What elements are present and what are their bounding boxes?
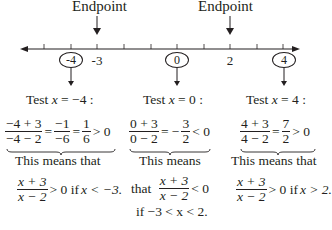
- test-arrow-icon: [281, 68, 287, 86]
- test-computation: −4 + 3−4 − 2 = −1−6 = 16 > 0: [5, 116, 111, 146]
- endpoint-label: Endpoint: [198, 0, 253, 15]
- number-line: [0, 0, 327, 90]
- test-arrow-icon: [174, 68, 180, 86]
- conclusion: that x + 3x − 2 < 0: [131, 174, 209, 203]
- left-arrow-icon: [20, 46, 28, 52]
- endpoint-arrow-icon: [226, 16, 234, 35]
- tick-label: -3: [92, 53, 103, 69]
- means-text: This means that: [15, 153, 100, 169]
- conclusion: x + 3x − 2 > 0 if x > 2.: [236, 174, 332, 204]
- endpoint-label: Endpoint: [72, 0, 127, 15]
- test-heading: Test x = 4 :: [246, 92, 306, 108]
- test-heading: Test x = 0 :: [143, 92, 203, 108]
- endpoint-arrow-icon: [93, 16, 101, 35]
- means-text: This means: [139, 153, 201, 169]
- tick-label-circled: -4: [59, 52, 83, 68]
- conclusion: x + 3x − 2 > 0 if x < −3.: [17, 174, 122, 204]
- tick-label: 2: [227, 53, 234, 69]
- tick-label-circled: 0: [165, 52, 189, 68]
- means-text: This means that: [231, 153, 316, 169]
- test-heading: Test x = −4 :: [26, 92, 94, 108]
- tick-label-circled: 4: [272, 52, 296, 68]
- right-arrow-icon: [292, 46, 300, 52]
- test-computation: 4 + 34 − 2 = 72 > 0: [240, 116, 310, 146]
- test-arrow-icon: [68, 68, 74, 86]
- test-computation: 0 + 30 − 2 = − 32 < 0: [129, 116, 210, 146]
- conclusion-condition: if −3 < x < 2.: [136, 204, 208, 220]
